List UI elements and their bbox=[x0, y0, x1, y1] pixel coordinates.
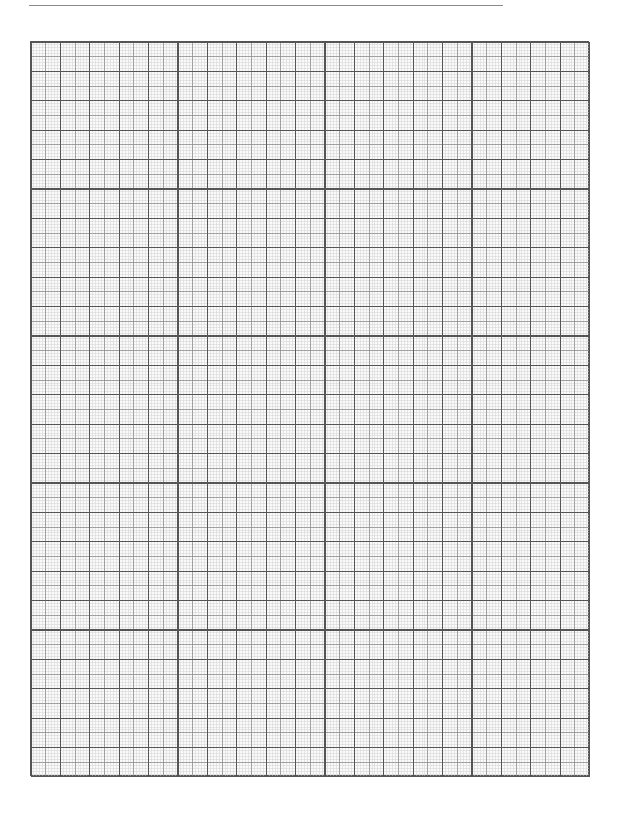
medium-grid-lines bbox=[31, 42, 590, 777]
graph-grid bbox=[30, 41, 589, 776]
grid-lines bbox=[31, 42, 590, 777]
name-line bbox=[29, 5, 503, 6]
